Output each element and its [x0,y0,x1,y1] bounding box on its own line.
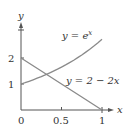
y-tick-label-1: 1 [8,79,14,90]
x-axis-arrow-icon [108,108,114,112]
y-tick-label-2: 2 [8,53,14,64]
x-axis-label: x [117,104,123,115]
x-tick-label-0.5: 0.5 [53,115,69,126]
x-tick-label-0: 0 [18,115,24,126]
label-exp: y = ex [61,29,92,41]
x-tick-label-1: 1 [99,115,105,126]
y-axis-label: y [17,10,24,21]
label-linear: y = 2 − 2x [65,75,120,86]
y-axis-arrow-icon [19,22,23,28]
chart: y x 2 1 0 0.5 1 y = ex y = 2 − 2x [0,0,129,132]
